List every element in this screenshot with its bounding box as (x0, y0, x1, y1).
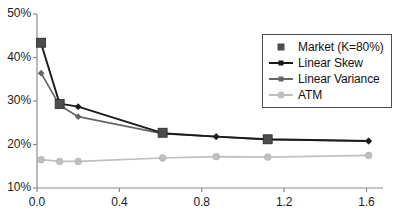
data-point-marker (158, 128, 167, 137)
data-point-marker (263, 135, 272, 144)
legend-item-linear-skew: Linear Skew (268, 55, 384, 71)
x-axis-tick-label: 1.6 (347, 195, 387, 209)
data-point-marker (37, 38, 46, 47)
data-point-marker (213, 153, 220, 160)
data-point-marker (75, 103, 82, 110)
x-axis-tick-label: 0.4 (99, 195, 139, 209)
legend-item-linear-variance: Linear Variance (268, 71, 384, 87)
data-point-marker (38, 70, 45, 77)
legend-item-market: Market (K=80%) (268, 39, 384, 55)
legend-label-linear-variance: Linear Variance (294, 72, 380, 86)
legend-label-linear-skew: Linear Skew (294, 56, 363, 70)
plus-marker-icon (279, 61, 284, 66)
data-point-marker (159, 155, 166, 162)
x-axis-tick-label: 0.8 (182, 195, 222, 209)
y-axis-tick-label: 10% (0, 180, 31, 194)
data-point-marker (38, 156, 45, 163)
data-point-marker (56, 158, 63, 165)
y-axis-tick-label: 20% (0, 137, 31, 151)
x-axis-tick-label: 0.0 (17, 195, 57, 209)
legend-key-market (268, 40, 294, 54)
legend-key-atm (268, 88, 294, 102)
plus-marker-icon (279, 77, 284, 82)
data-point-marker (365, 138, 372, 145)
circle-marker-icon (278, 92, 285, 99)
data-point-marker (75, 158, 82, 165)
legend-label-atm: ATM (294, 88, 322, 102)
legend-label-market: Market (K=80%) (294, 40, 384, 54)
data-point-marker (55, 100, 64, 109)
data-point-marker (365, 152, 372, 159)
chart-container: Market (K=80%) Linear Skew Linear Varian… (0, 0, 400, 221)
x-axis-tick-label: 1.2 (264, 195, 304, 209)
data-point-marker (213, 133, 220, 140)
y-axis-tick-label: 30% (0, 93, 31, 107)
data-point-marker (264, 154, 271, 161)
legend-item-atm: ATM (268, 87, 384, 103)
legend-key-linear-variance (268, 72, 294, 86)
y-axis-tick-label: 50% (0, 6, 31, 20)
chart-legend: Market (K=80%) Linear Skew Linear Varian… (262, 34, 392, 108)
series-line (41, 155, 368, 161)
square-marker-icon (278, 44, 285, 51)
legend-key-linear-skew (268, 56, 294, 70)
y-axis-tick-label: 40% (0, 50, 31, 64)
